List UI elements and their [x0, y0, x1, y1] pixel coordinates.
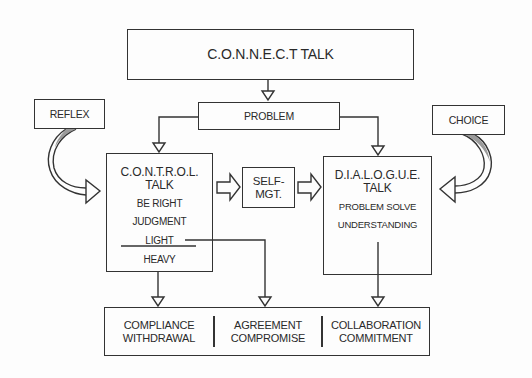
connector-problem-dialogue — [340, 117, 378, 146]
control-item-judgment: JUDGMENT — [133, 216, 187, 228]
arrowhead-down-icon — [372, 146, 384, 155]
outcomes-box: COMPLIANCE WITHDRAWAL AGREEMENT COMPROMI… — [104, 307, 430, 356]
curved-arrow-choice-icon — [440, 134, 491, 202]
choice-box: CHOICE — [432, 105, 505, 135]
control-talk-box: C.O.N.T.R.O.L. TALK BE RIGHT JUDGMENT LI… — [106, 153, 213, 272]
control-item-be-right: BE RIGHT — [137, 198, 183, 210]
outcome-compliance: COMPLIANCE WITHDRAWAL — [105, 308, 213, 355]
outcome-collaboration-line1: COLLABORATION — [331, 319, 421, 332]
self-mgt-box: SELF- MGT. — [242, 167, 295, 208]
reflex-box: REFLEX — [34, 99, 105, 129]
control-item-heavy: HEAVY — [143, 254, 175, 266]
block-arrow-right-icon — [298, 174, 321, 200]
outcome-agreement: AGREEMENT COMPROMISE — [215, 308, 321, 355]
arrowhead-down-icon — [153, 143, 165, 152]
arrowhead-down-icon — [152, 297, 164, 306]
reflex-label: REFLEX — [50, 108, 90, 120]
outcome-compliance-line2: WITHDRAWAL — [123, 332, 195, 345]
dialogue-item-understanding: UNDERSTANDING — [338, 219, 418, 231]
connect-talk-label: C.O.N.N.E.C.T TALK — [207, 47, 333, 61]
dialogue-item-problem-solve: PROBLEM SOLVE — [339, 201, 416, 213]
dialogue-title-talk: TALK — [363, 182, 391, 195]
dialogue-talk-box: D.I.A.L.O.G.U.E. TALK PROBLEM SOLVE UNDE… — [323, 156, 432, 275]
problem-box: PROBLEM — [198, 102, 340, 130]
connect-talk-box: C.O.N.N.E.C.T TALK — [127, 29, 414, 80]
outcome-agreement-line2: COMPROMISE — [231, 332, 305, 345]
self-mgt-line2: MGT. — [255, 188, 282, 201]
connect-talk-diagram: C.O.N.N.E.C.T TALK PROBLEM REFLEX CHOICE… — [0, 0, 532, 378]
arrowhead-down-icon — [372, 297, 384, 306]
self-mgt-line1: SELF- — [253, 175, 285, 188]
curved-arrow-reflex-icon — [48, 129, 100, 203]
block-arrow-right-icon — [217, 174, 240, 200]
choice-label: CHOICE — [449, 114, 489, 126]
connector-problem-control — [159, 117, 198, 143]
outcome-collaboration: COLLABORATION COMMITMENT — [323, 308, 429, 355]
control-title-talk: TALK — [145, 179, 173, 192]
outcome-compliance-line1: COMPLIANCE — [124, 319, 195, 332]
outcome-collaboration-line2: COMMITMENT — [339, 332, 413, 345]
arrowhead-down-icon — [262, 91, 274, 100]
control-item-light: LIGHT — [145, 235, 173, 247]
outcome-agreement-line1: AGREEMENT — [234, 319, 302, 332]
arrowhead-down-icon — [259, 297, 271, 306]
problem-label: PROBLEM — [244, 110, 294, 122]
